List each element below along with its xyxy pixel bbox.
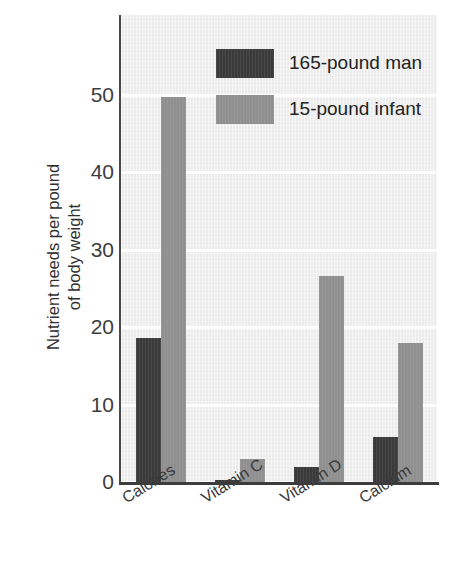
- legend-swatch-texture: [216, 49, 274, 78]
- bar-calories-man: [136, 338, 161, 482]
- y-axis-line: [119, 15, 121, 484]
- legend-swatch-infant: [216, 95, 274, 124]
- legend-swatch-texture: [216, 95, 274, 124]
- legend-swatch-man: [216, 49, 274, 78]
- legend-entry-1: 165-pound man: [216, 44, 442, 82]
- y-axis-title: Nutrient needs per pound of body weight: [43, 107, 85, 407]
- bar-calories-infant: [161, 97, 186, 482]
- legend: 165-pound man15-pound infant: [216, 44, 442, 136]
- legend-label-infant: 15-pound infant: [289, 98, 421, 120]
- legend-label-man: 165-pound man: [289, 52, 422, 74]
- y-axis-title-line-2: of body weight: [64, 107, 85, 407]
- y-axis-title-line-1: Nutrient needs per pound: [43, 107, 64, 407]
- y-tick-label-0: 0: [68, 471, 114, 492]
- bar-texture: [136, 338, 161, 482]
- bar-texture: [161, 97, 186, 482]
- bar-calcium-infant: [398, 343, 423, 482]
- bar-texture: [398, 343, 423, 482]
- bar-chart: 01020304050 Nutrient needs per pound of …: [0, 0, 454, 584]
- legend-entry-2: 15-pound infant: [216, 90, 442, 128]
- bar-vitamin-d-infant: [319, 276, 344, 482]
- bar-texture: [319, 276, 344, 482]
- y-tick-label-50: 50: [68, 84, 114, 105]
